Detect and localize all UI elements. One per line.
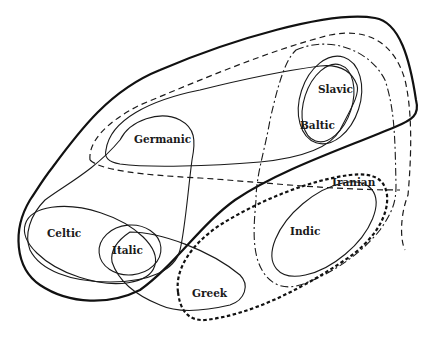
balto-slavic-outer — [288, 48, 373, 152]
balto-slavic-inner — [293, 58, 363, 149]
label-iranian: Iranian — [332, 177, 375, 188]
western-band-loop — [106, 66, 358, 166]
label-slavic: Slavic — [318, 84, 353, 95]
outer-boundary — [19, 17, 418, 301]
label-baltic: Baltic — [300, 120, 335, 131]
label-greek: Greek — [192, 288, 227, 299]
label-celtic: Celtic — [47, 228, 81, 239]
label-germanic: Germanic — [134, 134, 191, 145]
label-indic: Indic — [290, 226, 320, 237]
eastern-dashdot-loop — [254, 44, 396, 287]
label-italic: Italic — [112, 245, 143, 256]
